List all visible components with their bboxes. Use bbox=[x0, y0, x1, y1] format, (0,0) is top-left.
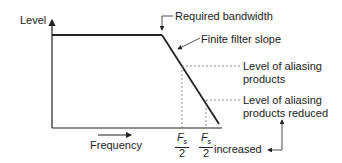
increased-label: increased bbox=[214, 143, 262, 155]
filter-slope-pointer bbox=[178, 38, 200, 49]
y-axis-label: Level bbox=[20, 14, 46, 26]
aliasing-reduced-label-line2: products reduced bbox=[243, 107, 328, 119]
aliasing-label-line1: Level of aliasing bbox=[243, 60, 322, 72]
increased-pointer bbox=[268, 124, 282, 150]
x-axis-label: Frequency bbox=[90, 139, 142, 151]
filter-slope-line bbox=[162, 35, 219, 124]
fs-over-2-tick: Fs 2 bbox=[175, 132, 189, 159]
aliasing-reduced-label-line1: Level of aliasing bbox=[243, 94, 322, 106]
required-bandwidth-pointer bbox=[162, 16, 173, 30]
finite-filter-slope-label: Finite filter slope bbox=[201, 33, 281, 45]
fs-over-2-increased-tick: Fs 2 bbox=[199, 132, 213, 159]
aliasing-label-line2: products bbox=[243, 73, 285, 85]
filter-diagram bbox=[0, 0, 342, 163]
required-bandwidth-label: Required bandwidth bbox=[175, 10, 273, 22]
